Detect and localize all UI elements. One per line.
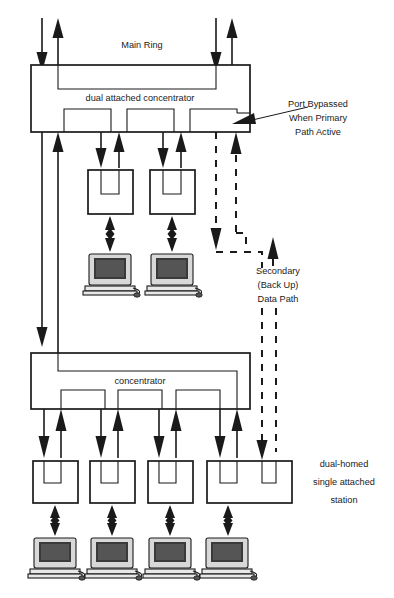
secondary-path-note-line-1: Secondary (256, 266, 300, 276)
main-ring-label: Main Ring (121, 40, 162, 50)
dac-to-concentrator-down (37, 132, 48, 347)
concentrator-to-dac-up (53, 132, 64, 353)
lower-station-2-to-computer-link (107, 505, 117, 536)
computer-lower-4 (200, 538, 257, 580)
diagram-canvas: Main Ring dual attached concentrator (0, 0, 394, 598)
secondary-path-note-line-3: Data Path (258, 294, 299, 304)
upper-station-2-box (150, 170, 195, 214)
secondary-path-dashed-jogs (216, 233, 262, 268)
computer-lower-3 (143, 538, 200, 580)
dac-port1-down-link (96, 132, 107, 168)
concentrator-port2-down-link (96, 409, 107, 458)
concentrator-port4-down-link (215, 409, 226, 458)
port-bypassed-note-line-2: When Primary (289, 113, 348, 123)
concentrator-port1-down-link (39, 409, 50, 458)
concentrator-label: concentrator (114, 376, 165, 386)
lower-station-1-up-link (56, 409, 67, 458)
lower-station-1-box (33, 461, 78, 503)
lower-station-3-box (148, 461, 193, 503)
upper-station-1-to-computer-link (105, 216, 115, 252)
dual-homed-note-line-3: station (330, 495, 357, 505)
ring-trunk-left-down (37, 18, 48, 72)
port-bypassed-note-line-1: Port Bypassed (288, 99, 348, 109)
dual-attached-concentrator-label: dual attached concentrator (86, 93, 195, 103)
secondary-path-riser-arrow (268, 237, 279, 268)
station1-up-link (114, 132, 125, 168)
upper-station-2-to-computer-link (167, 216, 177, 252)
ring-trunk-right-down (211, 18, 222, 72)
dac-port2-down-link (158, 132, 169, 168)
upper-station-1-box (88, 170, 133, 214)
secondary-path-dashed-up (231, 132, 242, 232)
computer-lower-2 (85, 538, 142, 580)
fddi-network-diagram: Main Ring dual attached concentrator (0, 0, 394, 598)
computer-lower-1 (28, 538, 85, 580)
station2-up-link (176, 132, 187, 168)
secondary-path-dashed-down (211, 132, 222, 250)
lower-station-2-up-link (113, 409, 124, 458)
port-bypassed-note-line-3: Path Active (295, 127, 341, 137)
dual-homed-note-line-2: single attached (313, 477, 375, 487)
computer-upper-1 (83, 254, 140, 297)
lower-station-3-up-link (171, 409, 182, 458)
lower-station-1-to-computer-link (50, 505, 60, 536)
dual-homed-note-line-1: dual-homed (320, 459, 369, 469)
lower-station-3-to-computer-link (165, 505, 175, 536)
lower-station-2-box (90, 461, 135, 503)
lower-station-4-up-link (232, 409, 243, 458)
concentrator-port3-down-link (154, 409, 165, 458)
secondary-path-note-line-2: (Back Up) (258, 280, 299, 290)
secondary-path-long-dashed (257, 308, 277, 460)
lower-station-4-to-computer-link (223, 505, 233, 536)
computer-upper-2 (145, 254, 202, 297)
